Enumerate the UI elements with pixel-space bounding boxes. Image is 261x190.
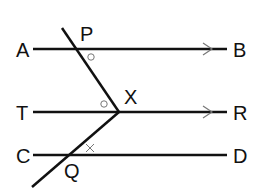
angle-mark-x-circle-icon [101,101,107,107]
label-c: C [16,145,30,167]
label-b: B [233,39,246,61]
label-t: T [16,102,28,124]
label-d: D [233,145,247,167]
label-r: R [233,102,247,124]
angle-mark-q-cross-icon [86,144,94,152]
label-q: Q [64,160,80,182]
angle-mark-p-circle-icon [88,54,94,60]
label-p: P [80,23,93,45]
parallel-lines-diagram: A B P X T R C Q D [0,0,261,190]
label-a: A [16,39,30,61]
label-x: X [124,86,137,108]
